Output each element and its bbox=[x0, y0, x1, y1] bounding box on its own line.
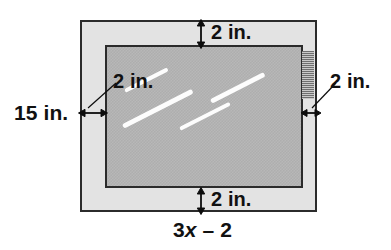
television-dimension-diagram: 2 in. 2 in. 2 in. 2 in. 15 in. 3x – 2 bbox=[0, 0, 391, 250]
total-height-label: 15 in. bbox=[14, 101, 68, 125]
width-constant: 2 bbox=[220, 218, 232, 241]
television-screen bbox=[105, 45, 303, 188]
right-margin-label: 2 in. bbox=[330, 70, 371, 93]
total-width-label: 3x – 2 bbox=[173, 218, 232, 242]
screen-glare-streak bbox=[179, 102, 231, 131]
screen-glare-streak bbox=[122, 89, 194, 129]
top-margin-arrow bbox=[194, 18, 208, 50]
width-variable: x bbox=[185, 218, 197, 241]
top-margin-label: 2 in. bbox=[211, 21, 252, 44]
left-margin-label: 2 in. bbox=[113, 70, 154, 93]
bottom-margin-arrow bbox=[194, 186, 208, 216]
width-operator: – bbox=[203, 218, 215, 241]
width-coefficient: 3 bbox=[173, 218, 185, 241]
bottom-margin-label: 2 in. bbox=[211, 188, 252, 211]
screen-glare-streak bbox=[210, 72, 266, 104]
